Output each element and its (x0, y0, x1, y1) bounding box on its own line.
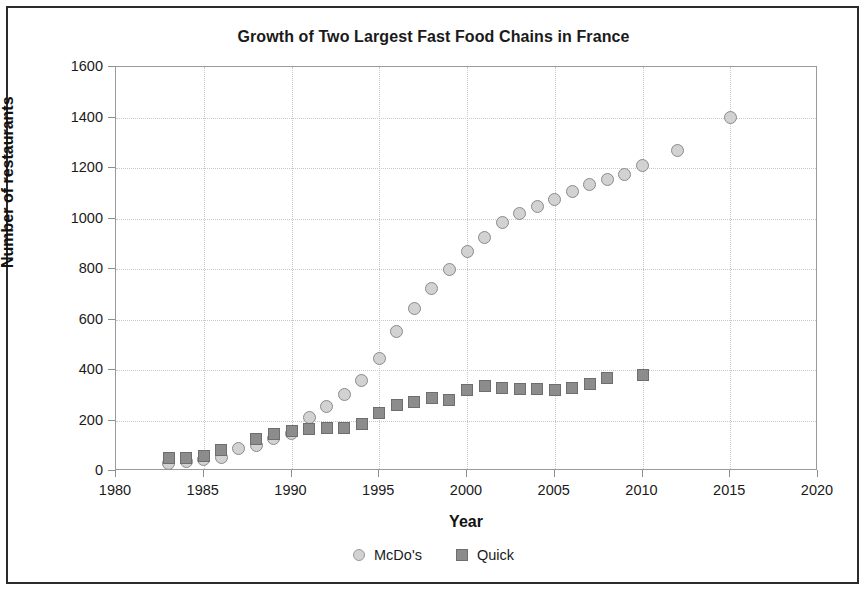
chart-legend: McDo's Quick (0, 547, 867, 563)
data-point-quick (163, 452, 175, 464)
x-tick-mark (203, 470, 204, 477)
legend-item-quick: Quick (456, 547, 514, 563)
gridline-horizontal (116, 269, 816, 270)
data-point-quick (321, 422, 333, 434)
data-point-quick (637, 369, 649, 381)
x-tick-label: 2015 (694, 482, 764, 498)
data-point-quick (408, 396, 420, 408)
data-point-mcdos (548, 193, 561, 206)
square-marker-icon (456, 549, 468, 561)
data-point-mcdos (531, 200, 544, 213)
data-point-quick (531, 383, 543, 395)
y-tick-label: 400 (43, 361, 103, 377)
y-tick-mark (108, 420, 115, 421)
y-tick-label: 1000 (43, 210, 103, 226)
data-point-mcdos (390, 325, 403, 338)
x-tick-label: 1980 (80, 482, 150, 498)
y-tick-mark (108, 369, 115, 370)
legend-label-mcdos: McDo's (374, 547, 422, 563)
data-point-quick (601, 372, 613, 384)
data-point-quick (479, 380, 491, 392)
x-tick-mark (466, 470, 467, 477)
data-point-quick (215, 444, 227, 456)
gridline-vertical (730, 67, 731, 469)
y-tick-label: 1600 (43, 58, 103, 74)
data-point-mcdos (671, 144, 684, 157)
x-tick-mark (642, 470, 643, 477)
x-tick-label: 2000 (431, 482, 501, 498)
gridline-vertical (204, 67, 205, 469)
x-tick-label: 1995 (343, 482, 413, 498)
data-point-mcdos (601, 173, 614, 186)
chart-title: Growth of Two Largest Fast Food Chains i… (0, 28, 867, 46)
data-point-mcdos (724, 111, 737, 124)
gridline-horizontal (116, 320, 816, 321)
data-point-mcdos (373, 352, 386, 365)
data-point-mcdos (478, 231, 491, 244)
data-point-quick (566, 382, 578, 394)
x-axis-label: Year (115, 513, 817, 531)
data-point-quick (180, 452, 192, 464)
y-tick-label: 0 (43, 462, 103, 478)
data-point-quick (584, 378, 596, 390)
y-tick-mark (108, 66, 115, 67)
gridline-horizontal (116, 421, 816, 422)
y-tick-mark (108, 470, 115, 471)
data-point-quick (303, 423, 315, 435)
data-point-mcdos (618, 168, 631, 181)
data-point-quick (443, 394, 455, 406)
y-tick-mark (108, 319, 115, 320)
data-point-mcdos (443, 263, 456, 276)
data-point-mcdos (566, 185, 579, 198)
x-tick-label: 2020 (782, 482, 852, 498)
gridline-horizontal (116, 118, 816, 119)
data-point-quick (391, 399, 403, 411)
data-point-mcdos (496, 216, 509, 229)
data-point-quick (356, 418, 368, 430)
plot-area (115, 66, 817, 470)
gridline-vertical (467, 67, 468, 469)
data-point-quick (373, 407, 385, 419)
y-axis-label: Number of restaurants (0, 96, 17, 268)
gridline-horizontal (116, 370, 816, 371)
x-tick-mark (291, 470, 292, 477)
data-point-quick (496, 382, 508, 394)
legend-item-mcdos: McDo's (353, 547, 422, 563)
circle-marker-icon (353, 549, 365, 561)
data-point-mcdos (425, 282, 438, 295)
chart-figure: Growth of Two Largest Fast Food Chains i… (0, 0, 867, 592)
x-tick-mark (378, 470, 379, 477)
data-point-quick (198, 450, 210, 462)
x-tick-label: 1985 (168, 482, 238, 498)
gridline-horizontal (116, 168, 816, 169)
x-tick-label: 2005 (519, 482, 589, 498)
y-tick-mark (108, 268, 115, 269)
gridline-vertical (643, 67, 644, 469)
data-point-mcdos (461, 245, 474, 258)
data-point-quick (250, 433, 262, 445)
gridline-vertical (292, 67, 293, 469)
data-point-mcdos (232, 442, 245, 455)
data-point-quick (268, 428, 280, 440)
data-point-quick (461, 384, 473, 396)
data-point-quick (549, 384, 561, 396)
x-tick-mark (554, 470, 555, 477)
data-point-mcdos (355, 374, 368, 387)
data-point-quick (426, 392, 438, 404)
y-tick-mark (108, 218, 115, 219)
x-tick-label: 1990 (256, 482, 326, 498)
data-point-mcdos (338, 388, 351, 401)
y-tick-label: 800 (43, 260, 103, 276)
y-tick-label: 1200 (43, 159, 103, 175)
data-point-mcdos (583, 178, 596, 191)
y-tick-mark (108, 167, 115, 168)
x-tick-mark (729, 470, 730, 477)
y-tick-label: 200 (43, 412, 103, 428)
y-tick-label: 600 (43, 311, 103, 327)
data-point-mcdos (636, 159, 649, 172)
y-tick-mark (108, 117, 115, 118)
data-point-quick (514, 383, 526, 395)
data-point-quick (286, 425, 298, 437)
y-tick-label: 1400 (43, 109, 103, 125)
data-point-quick (338, 422, 350, 434)
